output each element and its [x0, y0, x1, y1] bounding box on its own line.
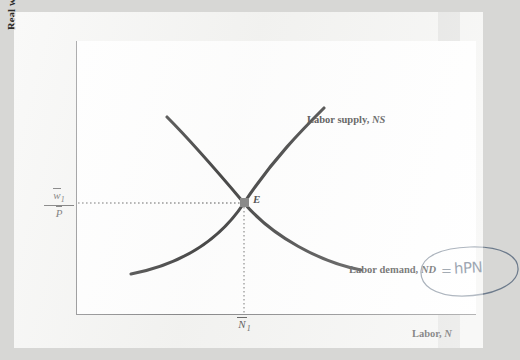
y-axis-title: Real wage, w [6, 0, 17, 30]
labor-supply-label-text: Labor supply, [307, 114, 369, 125]
textbook-page-sheet: Real wage, w w1 P N1 Labor, N [14, 12, 483, 348]
labor-supply-label-symbol: NS [372, 114, 385, 125]
scanned-page-background: Real wage, w w1 P N1 Labor, N [0, 0, 520, 360]
y-axis-title-text: Real wage, [6, 0, 17, 30]
labor-supply-label: Labor supply, NS [307, 114, 385, 125]
equilibrium-label: E [253, 193, 260, 205]
handwritten-equals: = [441, 263, 452, 278]
wage-numerator: w1 [44, 190, 74, 206]
labor-supply-curve [131, 108, 324, 274]
labor-demand-curve [167, 117, 361, 270]
wage-denominator: P [44, 206, 74, 219]
plot-area: E Labor supply, NS Labor demand, ND [76, 41, 476, 315]
labor-demand-label-text: Labor demand, [349, 264, 418, 275]
x-axis-title-symbol: N [444, 328, 452, 339]
x-axis-title: Labor, N [412, 328, 452, 339]
equilibrium-marker [240, 198, 249, 207]
y-axis-tick-label-wage: w1 P [44, 190, 74, 219]
x-axis-title-text: Labor, [412, 328, 442, 339]
labor-tick-symbol: N [237, 317, 246, 330]
handwritten-formula: hPN [454, 258, 483, 277]
x-axis-tick-label-labor: N1 [228, 318, 260, 333]
labor-tick-subscript: 1 [247, 324, 251, 333]
